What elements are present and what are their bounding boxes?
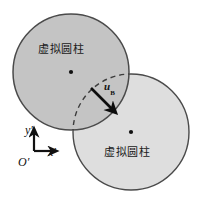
figure-container: 虚拟圆柱 虚拟圆柱 uB y′ x′ O′ [0,0,197,201]
axis-x-label: x′ [48,146,56,158]
bottom-cylinder-label: 虚拟圆柱 [104,147,150,158]
velocity-vector-label: uB [104,81,115,95]
right-cylinder-center-dot [129,130,133,134]
axis-origin-label: O′ [18,156,29,168]
top-cylinder-label: 虚拟圆柱 [38,44,84,55]
velocity-vector-subscript: B [110,89,115,97]
diagram-canvas [0,0,197,201]
left-cylinder-center-dot [69,70,73,74]
axis-y-label: y′ [25,124,33,136]
